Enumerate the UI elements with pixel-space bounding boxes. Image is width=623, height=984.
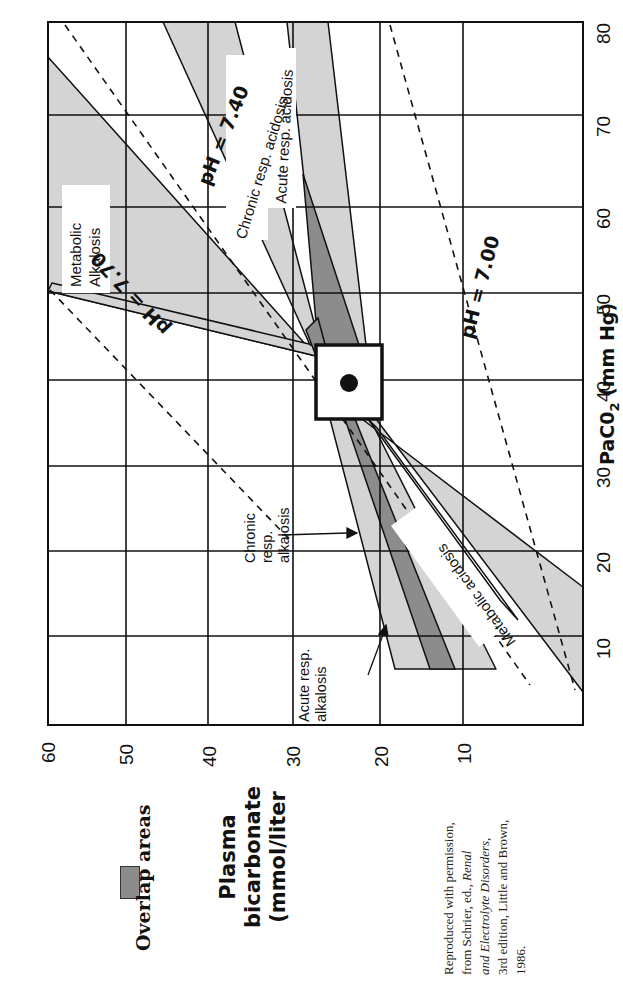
normal-point [340, 374, 358, 392]
x-axis-title-main: PaC0 [596, 412, 618, 465]
x-axis-title-sub: 2 [607, 403, 622, 412]
source-credit: Reproduced with permission, from Schrier… [440, 820, 530, 975]
label-acute-resp-alkalosis: Acute resp. alkalosis [296, 649, 330, 722]
label-line: alkalosis [313, 649, 330, 722]
legend-overlap-label: Overlap areas [132, 804, 154, 951]
y-axis-title-line: Plasma [216, 786, 241, 928]
y-axis-title: Plasma bicarbonate (mmol/liter [216, 786, 291, 928]
x-tick: 10 [593, 638, 615, 659]
y-tick: 60 [38, 742, 60, 763]
y-tick: 20 [371, 746, 393, 767]
credit-line: 1986. [512, 820, 530, 975]
x-tick: 20 [593, 552, 615, 573]
y-tick: 30 [283, 746, 305, 767]
x-axis-title: PaC02 (mm Hg) [596, 303, 622, 465]
y-tick: 50 [116, 744, 138, 765]
label-line: resp. [259, 507, 276, 563]
credit-line: 3rd edition, Little and Brown, [494, 820, 512, 975]
label-line: alkalosis [276, 507, 293, 563]
x-tick: 80 [593, 23, 615, 44]
y-tick: 10 [454, 743, 476, 764]
x-tick: 60 [593, 208, 615, 229]
credit-italic: Renal [459, 851, 474, 881]
credit-line: Reproduced with permission, [440, 820, 458, 975]
label-chronic-resp-alkalosis: Chronic resp. alkalosis [242, 507, 293, 563]
label-line: Metabolic [66, 223, 85, 287]
credit-line: and Electrolyte Disorders, [476, 820, 494, 975]
y-axis-title-line: bicarbonate [241, 786, 266, 928]
x-tick: 30 [593, 467, 615, 488]
y-axis-title-line: (mmol/liter [266, 786, 291, 928]
credit-italic: and Electrolyte Disorders, [477, 838, 492, 975]
x-axis-title-unit: (mm Hg) [596, 303, 618, 403]
label-line: Acute resp. [296, 649, 313, 722]
credit-line: from Schrier, ed., Renal [458, 820, 476, 975]
credit-text: from Schrier, ed., [459, 881, 474, 975]
y-tick: 40 [199, 746, 221, 767]
x-tick: 70 [593, 116, 615, 137]
label-line: Chronic [242, 507, 259, 563]
